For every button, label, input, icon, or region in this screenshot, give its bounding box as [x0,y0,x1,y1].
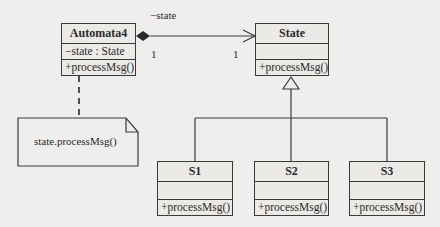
composition-diamond-icon [136,31,150,41]
class-state[interactable]: State +processMsg() [255,23,329,76]
class-operation: +processMsg() [62,59,135,76]
class-attributes-empty [255,181,328,199]
class-operation: +processMsg() [255,199,328,216]
source-multiplicity: 1 [151,48,157,60]
class-attribute: −state : State [62,43,135,59]
class-s2[interactable]: S2 +processMsg() [254,161,329,216]
class-s1[interactable]: S1 +processMsg() [157,161,233,216]
target-multiplicity: 1 [233,48,239,60]
note-text: state.processMsg() [34,135,117,147]
class-s3[interactable]: S3 +processMsg() [349,161,425,216]
class-attributes-empty [256,43,328,59]
association-role-label: −state [150,9,176,21]
class-name: State [256,24,328,43]
class-name: S2 [255,162,328,181]
class-automata4[interactable]: Automata4 −state : State +processMsg() [61,23,136,76]
class-name: S1 [158,162,232,181]
class-attributes-empty [350,181,424,199]
class-name: S3 [350,162,424,181]
class-operation: +processMsg() [350,199,424,216]
class-name: Automata4 [62,24,135,43]
generalization-triangle-icon [283,77,299,89]
class-operation: +processMsg() [158,199,232,216]
class-operation: +processMsg() [256,59,328,76]
class-attributes-empty [158,181,232,199]
